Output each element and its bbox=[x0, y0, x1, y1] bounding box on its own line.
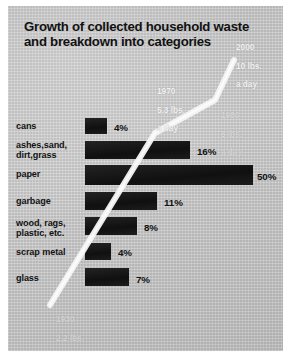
bar-value-garbage: 11% bbox=[164, 197, 183, 208]
page-title-line-2: and breakdown into categories bbox=[24, 35, 270, 50]
poster-frame: Growth of collected household waste and … bbox=[0, 0, 291, 358]
bar-category-label-cans: cans bbox=[16, 122, 86, 132]
bar-value-scrap-metal: 4% bbox=[118, 247, 132, 258]
page-title-line-1: Growth of collected household waste bbox=[24, 19, 249, 34]
bar-ashes-sand-dirt-grass bbox=[85, 141, 190, 159]
bar-scrap-metal bbox=[85, 243, 111, 260]
year-note-1980-year: 1980 bbox=[221, 110, 239, 120]
year-note-1970-amount: 5.3 lbs. bbox=[157, 105, 185, 115]
bar-cans bbox=[85, 118, 107, 134]
bar-category-label-wood-rags-plastic: wood, rags, plastic, etc. bbox=[16, 219, 88, 239]
year-note-1980: 1980 8 lbs. a day bbox=[221, 102, 242, 158]
bar-glass bbox=[85, 268, 129, 286]
bar-value-ashes-sand-dirt-grass: 16% bbox=[197, 146, 216, 157]
year-note-1970: 1970 5.3 lbs. a day bbox=[157, 78, 185, 134]
year-note-2000: 2000 10 lbs. a day bbox=[236, 34, 261, 90]
bar-value-cans: 4% bbox=[114, 122, 128, 133]
year-note-2000-period: a day bbox=[236, 79, 257, 89]
year-note-1930-year: 1930 bbox=[56, 314, 74, 324]
year-note-1930: 1930 2.2 lbs. a day bbox=[56, 306, 84, 351]
page-title: Growth of collected household waste and … bbox=[24, 20, 270, 49]
year-note-1980-amount: 8 lbs. bbox=[221, 129, 242, 139]
year-note-1930-amount: 2.2 lbs. bbox=[56, 333, 84, 343]
bar-value-paper: 50% bbox=[257, 171, 276, 182]
year-note-2000-amount: 10 lbs. bbox=[236, 61, 261, 71]
bar-category-label-paper: paper bbox=[16, 170, 86, 180]
year-note-1970-period: a day bbox=[157, 123, 178, 133]
bar-category-label-scrap-metal: scrap metal bbox=[16, 248, 88, 258]
bar-value-wood-rags-plastic: 8% bbox=[144, 222, 158, 233]
bar-wood-rags-plastic bbox=[85, 217, 137, 235]
year-note-1970-year: 1970 bbox=[157, 86, 175, 96]
bar-value-glass: 7% bbox=[136, 274, 150, 285]
bar-category-label-glass: glass bbox=[16, 274, 86, 284]
bar-paper bbox=[85, 165, 253, 185]
bar-garbage bbox=[85, 192, 157, 210]
poster-panel: Growth of collected household waste and … bbox=[8, 6, 283, 351]
bar-category-label-ashes-sand-dirt-grass: ashes,sand, dirt,grass bbox=[16, 141, 88, 161]
year-note-2000-year: 2000 bbox=[236, 42, 254, 52]
bar-category-label-garbage: garbage bbox=[16, 197, 86, 207]
year-note-1980-period: a day bbox=[221, 147, 242, 157]
